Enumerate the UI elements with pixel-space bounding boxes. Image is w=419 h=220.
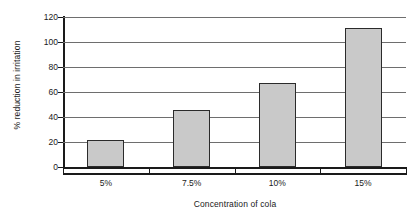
x-axis-tick-labels: 5%7.5%10%15% bbox=[63, 177, 407, 191]
y-axis-tick bbox=[58, 142, 63, 143]
y-axis-tick bbox=[58, 117, 63, 118]
x-axis-tick-label: 5% bbox=[63, 177, 149, 189]
y-axis-tick bbox=[58, 17, 63, 18]
y-axis-tick-label: 60 bbox=[30, 88, 58, 97]
y-axis-tick bbox=[58, 67, 63, 68]
y-axis-tick bbox=[58, 92, 63, 93]
y-axis-tick-labels: 020406080100120 bbox=[30, 0, 58, 220]
x-axis-title: Concentration of cola bbox=[63, 198, 407, 210]
x-axis bbox=[63, 167, 407, 175]
bar bbox=[259, 83, 296, 167]
y-axis-title: % reduction in irritation bbox=[8, 0, 26, 170]
y-axis-tick-label: 80 bbox=[30, 63, 58, 72]
x-axis-tick bbox=[235, 167, 236, 174]
x-axis-tick bbox=[149, 167, 150, 174]
y-axis-tick bbox=[58, 42, 63, 43]
bar-chart: % reduction in irritation 02040608010012… bbox=[0, 0, 419, 220]
bar-series bbox=[63, 17, 406, 167]
y-axis-tick bbox=[58, 167, 63, 168]
x-axis-tick-label: 10% bbox=[235, 177, 321, 189]
x-axis-tick bbox=[406, 167, 407, 174]
y-axis-tick-label: 20 bbox=[30, 138, 58, 147]
y-axis-tick-label: 120 bbox=[30, 13, 58, 22]
y-axis-tick-label: 100 bbox=[30, 38, 58, 47]
y-axis-tick-label: 0 bbox=[30, 163, 58, 172]
x-axis-tick bbox=[320, 167, 321, 174]
bar bbox=[173, 110, 210, 167]
x-axis-tick-label: 7.5% bbox=[149, 177, 235, 189]
bar bbox=[345, 28, 382, 167]
x-axis-tick bbox=[63, 167, 64, 174]
x-axis-tick-label: 15% bbox=[320, 177, 406, 189]
bar bbox=[87, 140, 124, 168]
y-axis-tick-label: 40 bbox=[30, 113, 58, 122]
plot-area bbox=[63, 17, 406, 167]
